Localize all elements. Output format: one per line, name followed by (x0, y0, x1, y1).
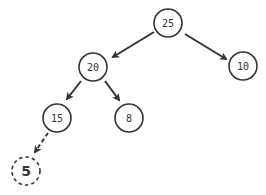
tree-node-5-new: 5 (12, 157, 40, 185)
binary-tree-diagram: 25 20 10 15 8 5 (0, 0, 266, 195)
node-label: 20 (87, 62, 99, 73)
tree-node-10: 10 (229, 52, 257, 80)
node-label: 8 (126, 113, 132, 124)
edge-20-to-8 (105, 81, 119, 100)
tree-node-8: 8 (115, 104, 143, 132)
node-label: 5 (21, 163, 31, 179)
tree-node-15: 15 (43, 104, 71, 132)
edge-25-to-10 (185, 34, 226, 59)
tree-node-20: 20 (79, 53, 107, 81)
node-label: 25 (162, 18, 174, 29)
edge-25-to-20 (113, 32, 154, 57)
node-label: 15 (51, 113, 63, 124)
tree-node-25: 25 (154, 9, 182, 37)
node-label: 10 (237, 61, 249, 72)
edge-15-to-5-dashed (35, 133, 48, 152)
edge-20-to-15 (67, 81, 81, 99)
